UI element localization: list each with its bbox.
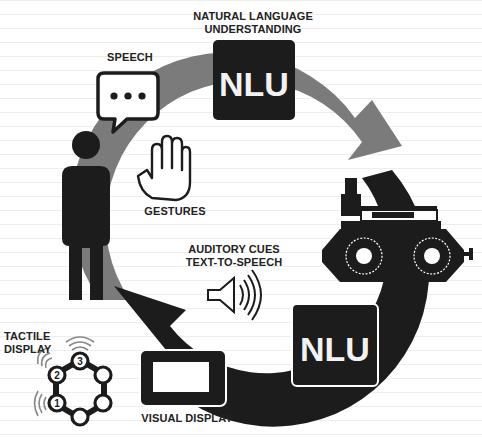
tactile-line2: DISPLAY (4, 343, 64, 356)
tactile-number-1: 1 (54, 398, 60, 409)
nlu-bottom-box: NLU (292, 304, 378, 386)
raised-hand-icon (138, 136, 190, 200)
gestures-label: GESTURES (140, 205, 210, 218)
nlu-caption-line1: NATURAL LANGUAGE (188, 10, 318, 23)
nlu-top-box: NLU (213, 40, 295, 120)
tactile-line1: TACTILE (4, 330, 64, 343)
interaction-loop-diagram: NLU NLU (0, 0, 482, 438)
nlu-caption: NATURAL LANGUAGE UNDERSTANDING (188, 10, 318, 36)
display-screen-icon (140, 350, 226, 406)
nlu-bottom-text: NLU (300, 330, 370, 368)
visual-display-label: VISUAL DISPLAY (132, 412, 242, 425)
nlu-top-text: NLU (219, 65, 289, 103)
auditory-line1: AUDITORY CUES (184, 243, 284, 256)
tactile-label: TACTILE DISPLAY (4, 330, 64, 356)
speaker-icon (208, 270, 261, 320)
auditory-line2: TEXT-TO-SPEECH (184, 256, 284, 269)
tactile-number-3: 3 (77, 356, 83, 367)
auditory-label: AUDITORY CUES TEXT-TO-SPEECH (184, 243, 284, 269)
tactile-number-2: 2 (54, 370, 60, 381)
speech-label: SPEECH (100, 51, 160, 64)
nlu-caption-line2: UNDERSTANDING (188, 23, 318, 36)
